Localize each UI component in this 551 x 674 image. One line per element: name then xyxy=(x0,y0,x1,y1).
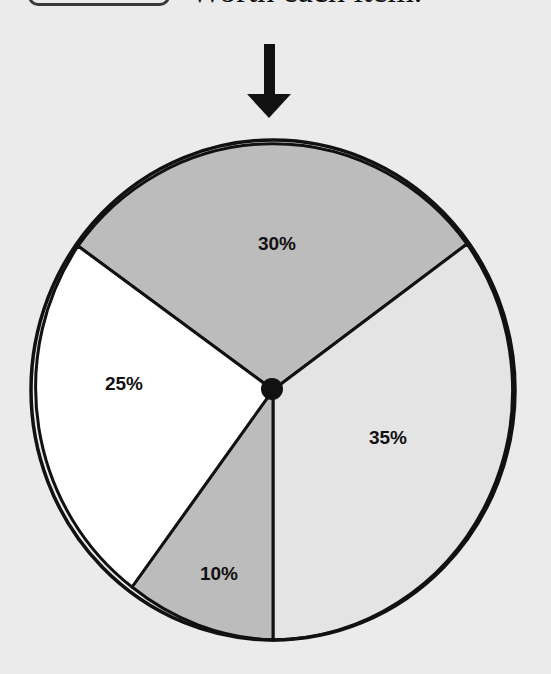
slice-label-25: 25% xyxy=(105,373,143,394)
down-arrow-icon xyxy=(247,44,291,118)
spinner-pie-chart: 30% 35% 10% 25% xyxy=(0,0,551,674)
slice-label-10: 10% xyxy=(200,563,238,584)
slice-label-30: 30% xyxy=(258,233,296,254)
slice-label-35: 35% xyxy=(369,427,407,448)
center-hub xyxy=(261,378,283,400)
